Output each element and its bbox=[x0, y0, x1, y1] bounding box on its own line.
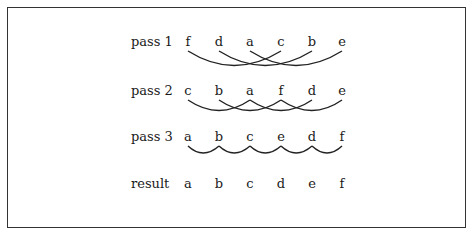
pass3-arcs bbox=[188, 146, 342, 153]
comparison-arcs bbox=[0, 0, 473, 237]
pass2-arcs bbox=[188, 100, 342, 111]
pass1-arcs bbox=[188, 51, 342, 66]
